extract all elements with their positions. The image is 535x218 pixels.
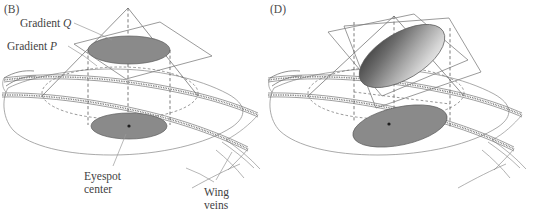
wing-edge-d-lower: [458, 164, 506, 188]
callout-wing-veins-line2: veins: [204, 199, 229, 211]
leader-wing-veins-1: [186, 168, 214, 182]
callout-gradient-p: Gradient P: [7, 40, 57, 52]
callout-gradient-p-word: Gradient: [7, 40, 48, 52]
eyespot-lower-d: [349, 97, 451, 154]
figure-container: (B) Gradient Q Gradient P Eyespot center…: [0, 0, 535, 218]
callout-gradient-q-word: Gradient: [20, 17, 61, 29]
callout-eyespot-center-line1: Eyespot: [84, 170, 122, 183]
callout-gradient-q-symbol: Q: [63, 17, 72, 29]
figure-svg: (B) Gradient Q Gradient P Eyespot center…: [0, 0, 535, 218]
callout-wing-veins-line1: Wing: [204, 186, 229, 199]
callout-eyespot-center-line2: center: [84, 183, 112, 195]
eyespot-center-dot-d: [387, 122, 390, 125]
eyespot-center-dot-b: [127, 124, 130, 127]
eyespot-lower-b: [91, 113, 167, 139]
wing-outline-b: [4, 69, 243, 155]
eyespot-upper-disc-b: [88, 36, 170, 64]
eyespot-upper-b: [88, 36, 170, 64]
leader-gradient-q: [74, 23, 112, 40]
panel-label-b: (B): [4, 3, 20, 16]
panel-b: (B) Gradient Q Gradient P Eyespot center…: [2, 3, 260, 211]
callout-gradient-q: Gradient Q: [20, 17, 72, 29]
callout-gradient-p-symbol: P: [49, 40, 57, 52]
wing-edge-b-lower: [192, 164, 240, 188]
leader-wing-veins-2: [216, 152, 232, 180]
panel-d: (D): [268, 3, 526, 188]
eyespot-lower-disc-d: [349, 97, 451, 154]
wing-surface-b: [4, 69, 243, 155]
panel-label-d: (D): [270, 3, 286, 16]
